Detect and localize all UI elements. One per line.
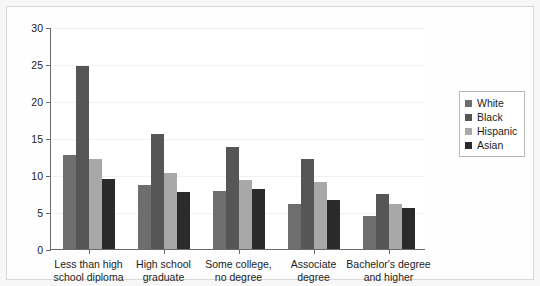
bar-group: Some college,no degree [201, 28, 276, 249]
bar [164, 173, 177, 249]
x-axis-tick [89, 249, 90, 254]
y-axis-tick-label: 0 [37, 244, 43, 256]
bar-group: Bachelor's degreeand higher [351, 28, 426, 249]
y-axis-tick-label: 15 [31, 133, 43, 145]
legend-swatch-icon [465, 142, 472, 149]
bar-group: Less than highschool diploma [51, 28, 126, 249]
legend-item[interactable]: Black [465, 110, 517, 124]
chart-panel: 051015202530 Less than highschool diplom… [6, 6, 534, 280]
legend-item-label: Asian [477, 139, 503, 151]
x-axis-tick [314, 249, 315, 254]
chart-figure: 051015202530 Less than highschool diplom… [0, 0, 540, 286]
bar [314, 182, 327, 249]
legend-swatch-icon [465, 128, 472, 135]
bar [327, 200, 340, 249]
legend-item[interactable]: Hispanic [465, 124, 517, 138]
bar-group: Associatedegree [276, 28, 351, 249]
plot-area: 051015202530 Less than highschool diplom… [50, 28, 425, 250]
bar [138, 185, 151, 249]
y-axis-tick [46, 250, 51, 251]
x-axis-tick-label-line: Bachelor's degree [335, 258, 443, 271]
legend-item-label: Black [477, 111, 503, 123]
bar [177, 192, 190, 249]
bar [301, 159, 314, 249]
x-axis-tick [389, 249, 390, 254]
legend-item[interactable]: White [465, 96, 517, 110]
bar [288, 204, 301, 249]
x-axis-tick-label: Bachelor's degreeand higher [335, 258, 443, 283]
bar [402, 208, 415, 249]
bar [213, 191, 226, 249]
legend-swatch-icon [465, 114, 472, 121]
y-axis-tick-label: 10 [31, 170, 43, 182]
bar [389, 204, 402, 249]
bar [239, 180, 252, 249]
bar [89, 159, 102, 249]
bar [376, 194, 389, 249]
legend-item[interactable]: Asian [465, 138, 517, 152]
x-axis-tick [239, 249, 240, 254]
bar [151, 134, 164, 249]
legend-swatch-icon [465, 100, 472, 107]
bar [76, 66, 89, 249]
x-axis-tick-label-line: and higher [335, 271, 443, 284]
bar [102, 179, 115, 249]
bar [63, 155, 76, 249]
y-axis-tick-label: 20 [31, 96, 43, 108]
legend-item-label: Hispanic [477, 125, 517, 137]
bar [363, 216, 376, 249]
x-axis-tick [164, 249, 165, 254]
bar [252, 189, 265, 249]
y-axis-tick-label: 5 [37, 207, 43, 219]
y-axis-tick-label: 30 [31, 22, 43, 34]
legend-item-label: White [477, 97, 504, 109]
bar-group: High schoolgraduate [126, 28, 201, 249]
bar [226, 147, 239, 249]
chart-legend: WhiteBlackHispanicAsian [459, 91, 525, 157]
y-axis-tick-label: 25 [31, 59, 43, 71]
